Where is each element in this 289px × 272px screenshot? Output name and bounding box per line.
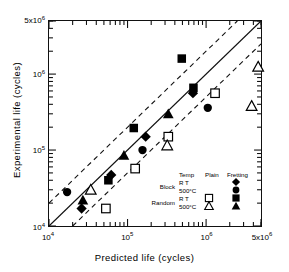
x-tick-label-3: 5x106 xyxy=(252,231,273,242)
legend-row-temp-2: R T xyxy=(179,196,189,202)
y-tick-label-0: 104 xyxy=(33,222,45,233)
x-tick-label-2: 106 xyxy=(200,231,212,242)
legend-header-plain: Plain xyxy=(205,172,219,178)
y-tick-label-1: 105 xyxy=(33,145,45,156)
chart-legend: TempPlainFrettingBlockRandomR T500°CR T5… xyxy=(143,170,259,218)
y-tick-label-2: 106 xyxy=(33,68,45,79)
data-point-filled-circle xyxy=(204,104,212,112)
data-point-filled-square xyxy=(104,176,113,185)
y-tick-label-3: 5x106 xyxy=(24,15,45,26)
legend-symbol-filled-triangle xyxy=(232,201,241,209)
legend-marker-glyph xyxy=(230,200,242,212)
x-tick-label-1: 105 xyxy=(121,231,133,242)
legend-symbol-open-triangle xyxy=(205,201,214,209)
data-point-filled-diamond xyxy=(140,132,150,142)
legend-group-random: Random xyxy=(152,200,175,206)
data-point-filled-triangle xyxy=(119,150,130,160)
data-point-filled-square xyxy=(178,54,187,63)
legend-row-temp-1: 500°C xyxy=(179,188,196,194)
data-point-open-triangle xyxy=(246,101,257,111)
data-point-filled-square xyxy=(189,84,198,93)
data-point-open-square xyxy=(164,132,173,141)
data-point-filled-circle xyxy=(138,146,146,154)
data-point-open-triangle xyxy=(162,140,173,150)
y-axis-label: Experimental life (cycles) xyxy=(11,15,22,225)
legend-group-block: Block xyxy=(160,184,175,190)
legend-row-temp-0: R T xyxy=(179,180,189,186)
legend-marker-glyph xyxy=(203,200,215,212)
data-point-filled-triangle xyxy=(163,108,174,118)
data-point-filled-square xyxy=(130,124,139,133)
legend-row-temp-3: 500°C xyxy=(179,204,196,210)
legend-header-temp: Temp xyxy=(179,172,194,178)
data-point-open-square xyxy=(131,164,140,173)
data-point-open-triangle xyxy=(253,61,264,71)
data-point-filled-circle xyxy=(63,188,71,196)
data-point-filled-diamond xyxy=(76,203,86,213)
legend-marker-open-triangle xyxy=(203,200,215,213)
x-tick-label-0: 104 xyxy=(42,231,54,242)
legend-marker-filled-triangle xyxy=(230,200,242,213)
data-point-open-square xyxy=(211,89,220,98)
data-point-open-square xyxy=(102,204,111,213)
x-axis-label: Predicted life (cycles) xyxy=(0,252,289,263)
series-2 xyxy=(104,54,198,184)
chart-figure: { "chart_data": { "type": "scatter", "ti… xyxy=(0,0,289,272)
